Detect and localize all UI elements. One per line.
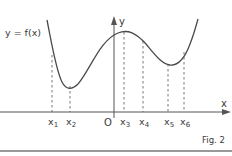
function-graph: y = f(x) y x O x1 x2 x3 x4 x5 x6 Fig. 2 [0, 0, 232, 156]
x1-label: x1 [48, 116, 58, 129]
y-axis-arrow-icon [111, 16, 117, 25]
x3-label: x3 [120, 116, 130, 129]
figure-caption: Fig. 2 [202, 135, 225, 145]
x6-label: x6 [180, 116, 191, 129]
x-point-labels: x1 x2 x3 x4 x5 x6 [48, 116, 191, 129]
function-label: y = f(x) [5, 27, 41, 38]
x-axis-label: x [221, 98, 227, 109]
function-curve [47, 19, 198, 88]
x4-label: x4 [139, 116, 150, 129]
x5-label: x5 [164, 116, 174, 129]
y-axis-label: y [119, 16, 125, 27]
x2-label: x2 [66, 116, 76, 129]
origin-label: O [104, 117, 112, 128]
dashed-guides [52, 32, 184, 112]
x-axis-arrow-icon [222, 109, 231, 115]
